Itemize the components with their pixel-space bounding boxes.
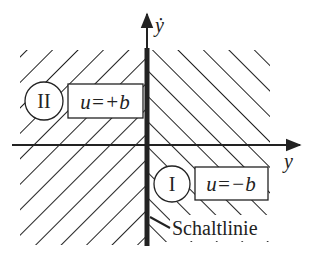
schaltlinie-label: Schaltlinie xyxy=(172,217,258,239)
region-II-control-law: u=+b xyxy=(80,90,129,114)
ydot-axis-label: ẏ xyxy=(153,14,164,37)
region-II-numeral: II xyxy=(37,90,50,112)
region-I-control-law: u=−b xyxy=(206,172,255,196)
region-II-hatch xyxy=(20,50,146,245)
phase-plane-diagram: ẏ y II u=+b I u=−b Schaltlinie xyxy=(0,0,311,261)
region-I-numeral: I xyxy=(169,173,176,195)
y-axis-label: y xyxy=(282,150,293,173)
